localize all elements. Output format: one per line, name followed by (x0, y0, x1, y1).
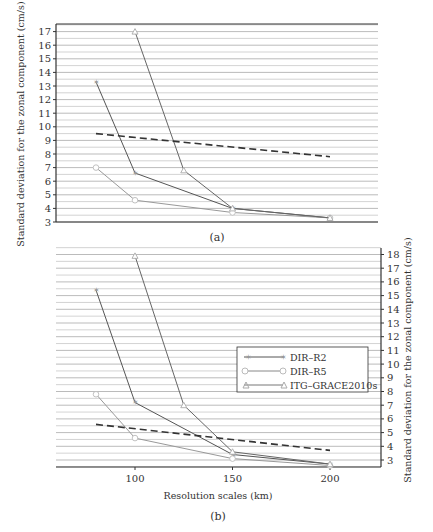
y-tick-label: 12 (387, 331, 400, 342)
x-tick-label: 200 (320, 473, 339, 484)
y-tick-label: 4 (45, 203, 51, 214)
circle-marker-icon (93, 391, 99, 397)
star-marker-icon: ✶ (132, 398, 139, 407)
y-tick-label: 16 (387, 276, 400, 287)
gridlines-a (56, 25, 378, 222)
y-tick-label: 14 (387, 304, 400, 315)
y-tick-label: 6 (387, 413, 393, 424)
panel-label-a: (a) (209, 231, 224, 244)
star-marker-icon: ✶ (280, 353, 287, 362)
y-tick-label: 10 (38, 121, 51, 132)
y-tick-label: 10 (387, 359, 400, 370)
chart-panel-a: 34567891011121314151617 ✶✶✶✶ Standard de… (15, 1, 378, 246)
triangle-marker-icon (181, 167, 187, 173)
y-axis-label-a: Standard deviation for the zonal compone… (15, 1, 26, 246)
y-tick-label: 17 (38, 26, 51, 37)
circle-marker-icon (280, 368, 286, 374)
circle-marker-icon (93, 165, 99, 171)
y-tick-label: 12 (38, 94, 51, 105)
circle-marker-icon (242, 368, 248, 374)
y-tick-label: 15 (38, 53, 51, 64)
star-marker-icon: ✶ (93, 286, 100, 295)
circle-marker-icon (132, 197, 138, 203)
y-tick-label: 15 (387, 290, 400, 301)
chart-panel-b: 3456789101112131415161718100150200 ✶✶✶✶ … (56, 237, 413, 523)
y-tick-label: 7 (387, 400, 393, 411)
y-tick-label: 17 (387, 263, 400, 274)
panel-label-b: (b) (210, 510, 226, 523)
legend-label-dir-r2: DIR–R2 (290, 352, 326, 363)
y-tick-label: 3 (387, 455, 393, 466)
y-tick-label: 9 (387, 372, 393, 383)
y-tick-label: 14 (38, 67, 51, 78)
y-axis-label-b: Standard deviation for the zonal compone… (402, 237, 413, 482)
y-tick-label: 3 (45, 217, 51, 228)
star-marker-icon: ✶ (132, 169, 139, 178)
y-tick-label: 13 (38, 81, 51, 92)
legend: ✶ ✶ DIR–R2 DIR–R5 ITG–GRACE2010s (237, 347, 377, 392)
y-tick-label: 16 (38, 40, 51, 51)
circle-marker-icon (132, 435, 138, 441)
star-marker-icon: ✶ (93, 78, 100, 87)
y-tick-label: 5 (387, 427, 393, 438)
y-tick-label: 6 (45, 176, 51, 187)
y-tick-label: 9 (45, 135, 51, 146)
series-line (135, 32, 330, 218)
y-tick-label: 11 (387, 345, 400, 356)
figure: 34567891011121314151617 ✶✶✶✶ Standard de… (0, 0, 433, 532)
legend-label-itg: ITG–GRACE2010s (290, 380, 377, 391)
x-axis-label-b: Resolution scales (km) (164, 490, 273, 501)
y-tick-label: 4 (387, 441, 393, 452)
y-tick-label: 11 (38, 108, 51, 119)
y-tick-label: 7 (45, 162, 51, 173)
axes-a: 34567891011121314151617 (38, 24, 378, 228)
x-tick-label: 100 (125, 473, 144, 484)
x-tick-label: 150 (223, 473, 242, 484)
triangle-marker-icon (132, 253, 138, 259)
y-tick-label: 8 (387, 386, 393, 397)
series-a: ✶✶✶✶ (93, 29, 334, 223)
legend-label-dir-r5: DIR–R5 (290, 366, 326, 377)
y-tick-label: 8 (45, 149, 51, 160)
star-marker-icon: ✶ (245, 353, 252, 362)
dashed-reference-line (96, 134, 330, 157)
y-tick-label: 18 (387, 249, 400, 260)
y-tick-label: 5 (45, 189, 51, 200)
y-tick-label: 13 (387, 318, 400, 329)
circle-marker-icon (230, 456, 236, 462)
